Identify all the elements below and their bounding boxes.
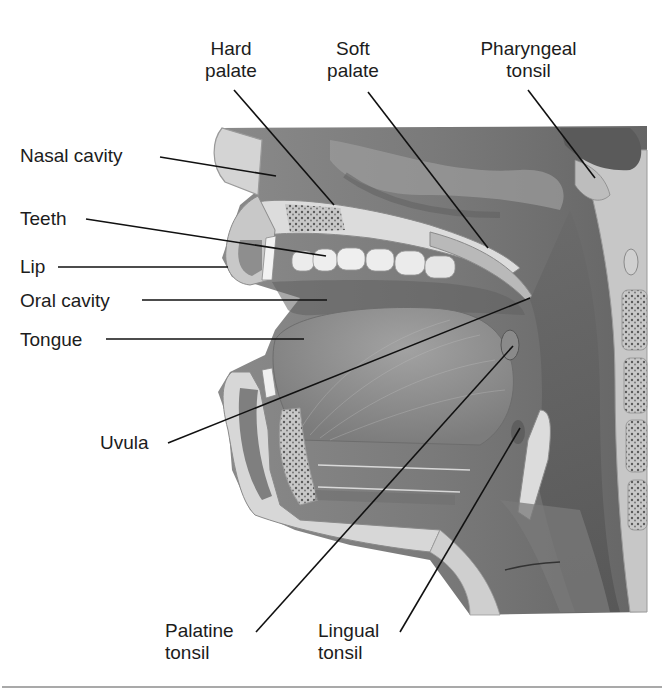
label-text: palate bbox=[196, 60, 266, 82]
label-text: Oral cavity bbox=[20, 290, 110, 312]
label-text: tonsil bbox=[466, 60, 591, 82]
label-nasal-cavity: Nasal cavity bbox=[20, 145, 122, 167]
label-text: Pharyngeal bbox=[466, 38, 591, 60]
label-lip: Lip bbox=[20, 256, 45, 278]
tongue-shape bbox=[273, 307, 513, 445]
label-text: Soft bbox=[318, 38, 388, 60]
label-text: Nasal cavity bbox=[20, 145, 122, 167]
label-text: Lip bbox=[20, 256, 45, 278]
label-hard-palate: Hard palate bbox=[196, 38, 266, 82]
nose bbox=[214, 128, 262, 195]
label-text: palate bbox=[318, 60, 388, 82]
label-soft-palate: Soft palate bbox=[318, 38, 388, 82]
label-oral-cavity: Oral cavity bbox=[20, 290, 110, 312]
anatomy-figure: Hard palate Soft palate Pharyngeal tonsi… bbox=[0, 0, 667, 690]
label-lingual-tonsil: Lingual tonsil bbox=[318, 620, 379, 664]
sagittal-head-illustration bbox=[0, 0, 667, 690]
bottom-separator-line bbox=[2, 686, 662, 688]
label-text: tonsil bbox=[318, 642, 379, 664]
label-teeth: Teeth bbox=[20, 208, 66, 230]
label-palatine-tonsil: Palatine tonsil bbox=[165, 620, 234, 664]
label-text: Palatine bbox=[165, 620, 234, 642]
label-tongue: Tongue bbox=[20, 329, 82, 351]
label-text: Teeth bbox=[20, 208, 66, 230]
label-pharyngeal-tonsil: Pharyngeal tonsil bbox=[466, 38, 591, 82]
label-text: Lingual bbox=[318, 620, 379, 642]
label-uvula: Uvula bbox=[100, 432, 149, 454]
label-text: Tongue bbox=[20, 329, 82, 351]
label-text: Uvula bbox=[100, 432, 149, 454]
label-text: Hard bbox=[196, 38, 266, 60]
label-text: tonsil bbox=[165, 642, 234, 664]
